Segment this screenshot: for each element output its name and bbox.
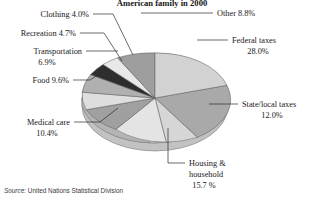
label-federal-taxes: Federal taxes [232, 36, 276, 45]
label-transportation-value: 6.9% [38, 58, 55, 67]
source-value: United Nations Statistical Division [26, 187, 123, 194]
leader-clothing [93, 14, 133, 55]
chart-title: American family in 2000 [117, 0, 207, 8]
label-state-local-taxes-value: 12.0% [261, 111, 283, 120]
label-medical-care: Medical care [27, 118, 70, 127]
label-food: Food 9.6% [33, 76, 70, 85]
label-transportation: Transportation [33, 47, 82, 56]
pie-chart-figure: American family in 2000 [0, 0, 325, 201]
label-recreation: Recreation 4.7% [21, 29, 76, 38]
chart-svg: American family in 2000 [0, 0, 325, 201]
label-housing: Housing & [189, 159, 226, 168]
label-medical-care-value: 10.4% [36, 129, 58, 138]
source-label: Source: [4, 187, 26, 194]
label-housing-line2: household [189, 170, 224, 179]
label-clothing: Clothing 4.0% [41, 10, 89, 19]
leader-recreation [80, 33, 122, 61]
label-housing-value: 15.7 % [192, 181, 216, 190]
source-note: Source: United Nations Statistical Divis… [4, 187, 123, 194]
label-other: Other 8.8% [217, 9, 255, 18]
label-state-local-taxes: State/local taxes [242, 100, 296, 109]
label-federal-taxes-value: 28.0% [247, 47, 269, 56]
